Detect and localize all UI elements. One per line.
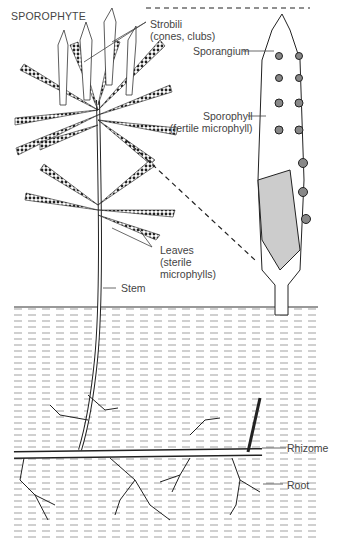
- strobilus-closeup: [258, 14, 311, 315]
- soil: [14, 307, 318, 542]
- label-strobili-line2: (cones, clubs): [150, 30, 215, 42]
- label-leaves-line3: microphylls): [160, 268, 216, 280]
- label-strobili-line1: Strobili: [150, 18, 215, 30]
- diagram-title: SPOROPHYTE: [11, 10, 86, 22]
- label-leaves: Leaves (sterile microphylls): [160, 244, 216, 280]
- label-leaves-line1: Leaves: [160, 244, 216, 256]
- label-root: Root: [287, 479, 309, 491]
- label-stem: Stem: [121, 282, 146, 294]
- label-sporangium: Sporangium: [193, 45, 250, 57]
- strobili-drawing: [58, 8, 136, 105]
- label-strobili: Strobili (cones, clubs): [150, 18, 215, 42]
- label-sporophyll: Sporophyll (fertile microphyll): [203, 110, 253, 134]
- label-sporophyll-line2: (fertile microphyll): [168, 122, 253, 134]
- label-rhizome: Rhizome: [287, 442, 328, 454]
- leafy-branches: [15, 40, 178, 240]
- label-leaves-line2: (sterile: [160, 256, 216, 268]
- label-sporophyll-line1: Sporophyll: [203, 110, 253, 122]
